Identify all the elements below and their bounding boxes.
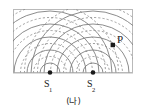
wave-interference-figure: P S1 S2 (나) xyxy=(0,0,147,112)
source2-label: S2 xyxy=(87,79,96,92)
source1-subscript: 1 xyxy=(49,86,52,93)
figure-caption: (나) xyxy=(0,94,147,106)
point-p-label: P xyxy=(117,34,123,45)
source1-marker xyxy=(48,70,53,75)
point-p-text: P xyxy=(117,33,123,45)
point-p-marker xyxy=(111,43,115,47)
source2-subscript: 2 xyxy=(92,86,95,93)
source2-marker xyxy=(91,70,96,75)
source1-label: S1 xyxy=(44,79,53,92)
